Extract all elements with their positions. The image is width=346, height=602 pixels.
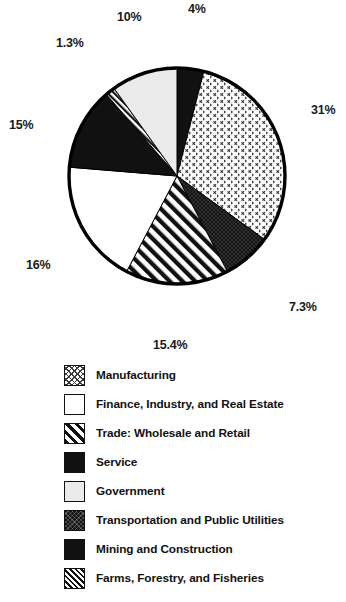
pct-label-manufacturing: 31% <box>311 103 335 117</box>
solid-black-swatch-icon <box>64 452 85 473</box>
legend-item-government[interactable]: Government <box>64 480 165 502</box>
legend-item-farms-forestry-and-fisheries[interactable]: Farms, Forestry, and Fisheries <box>64 567 264 589</box>
pct-label-government: 10% <box>117 10 141 24</box>
legend-item-transportation-and-public-utilities[interactable]: Transportation and Public Utilities <box>64 509 284 531</box>
pct-label-trade-wholesale-and-retail: 15.4% <box>153 338 187 352</box>
legend-label: Finance, Industry, and Real Estate <box>96 397 284 411</box>
light-gray-swatch-icon <box>64 481 85 502</box>
legend-item-finance-industry-and-real-estate[interactable]: Finance, Industry, and Real Estate <box>64 393 284 415</box>
chart-legend: Manufacturing Finance, Industry, and Rea… <box>0 358 346 602</box>
legend-item-manufacturing[interactable]: Manufacturing <box>64 364 176 386</box>
pct-label-mining-and-construction: 4% <box>188 2 206 16</box>
legend-label: Government <box>96 484 165 498</box>
crosshatch-swatch-icon <box>64 365 85 386</box>
fine-diagonal-swatch-icon <box>64 568 85 589</box>
legend-item-service[interactable]: Service <box>64 451 137 473</box>
diagonal-stripe-swatch-icon <box>64 423 85 444</box>
pct-label-transportation-and-public-utilities: 7.3% <box>289 300 317 314</box>
solid-black-swatch-icon <box>64 539 85 560</box>
legend-item-mining-and-construction[interactable]: Mining and Construction <box>64 538 233 560</box>
pct-label-finance-industry-and-real-estate: 16% <box>26 258 50 272</box>
legend-item-trade-wholesale-and-retail[interactable]: Trade: Wholesale and Retail <box>64 422 250 444</box>
legend-label: Farms, Forestry, and Fisheries <box>96 571 264 585</box>
legend-label: Manufacturing <box>96 368 176 382</box>
pct-label-service: 15% <box>9 118 33 132</box>
legend-label: Mining and Construction <box>96 542 233 556</box>
legend-label: Service <box>96 455 137 469</box>
dark-texture-swatch-icon <box>64 510 85 531</box>
legend-label: Transportation and Public Utilities <box>96 513 284 527</box>
white-swatch-icon <box>64 394 85 415</box>
legend-label: Trade: Wholesale and Retail <box>96 426 250 440</box>
pie-chart-area: 4% 31% 7.3% 15.4% 16% 15% 1.3% 10% <box>0 0 346 358</box>
pct-label-farms-forestry-and-fisheries: 1.3% <box>56 36 84 50</box>
